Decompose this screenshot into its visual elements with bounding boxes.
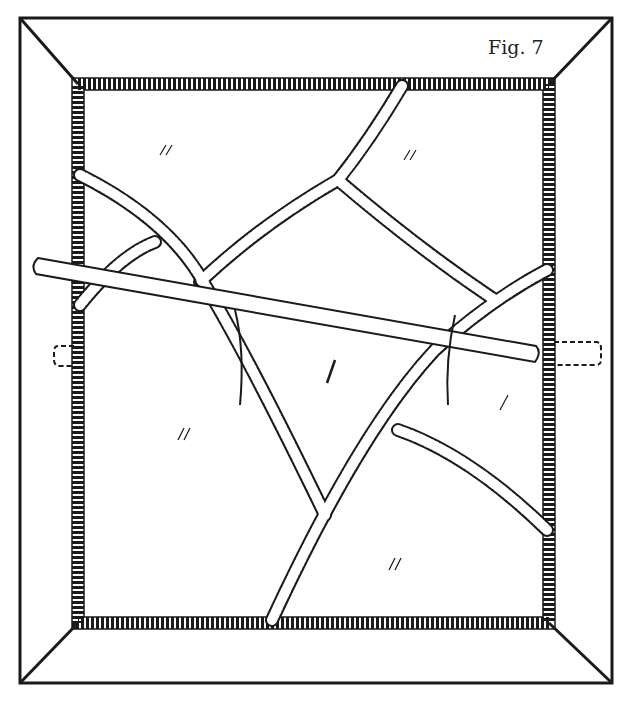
lead-came-strips [80,86,547,620]
framed-glass-diagram [0,0,636,710]
